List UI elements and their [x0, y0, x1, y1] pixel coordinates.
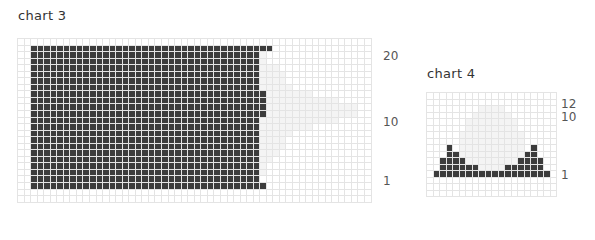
- chart-cell: [544, 191, 550, 197]
- chart-cell: [129, 104, 135, 110]
- chart-cell: [188, 78, 194, 84]
- chart-cell: [123, 78, 129, 84]
- chart-cell: [492, 165, 498, 171]
- chart-cell: [169, 124, 175, 130]
- chart-cell: [116, 91, 122, 97]
- chart-cell: [531, 171, 537, 177]
- chart-cell: [499, 178, 505, 184]
- chart-cell: [38, 163, 44, 169]
- chart-cell: [44, 85, 50, 91]
- chart-cell: [453, 139, 459, 145]
- chart-cell: [434, 152, 440, 158]
- chart-cell: [57, 183, 63, 189]
- chart-cell: [466, 184, 472, 190]
- chart-cell: [486, 152, 492, 158]
- chart-cell: [358, 183, 364, 189]
- row-label: 1: [383, 174, 391, 188]
- chart-cell: [136, 104, 142, 110]
- chart-cell: [306, 124, 312, 130]
- chart-cell: [51, 91, 57, 97]
- chart-cell: [286, 46, 292, 52]
- chart-cell: [247, 39, 253, 45]
- chart-cell: [339, 118, 345, 124]
- chart-cell: [188, 98, 194, 104]
- chart-cell: [51, 52, 57, 58]
- chart-cell: [116, 98, 122, 104]
- chart-cell: [221, 163, 227, 169]
- chart-cell: [505, 126, 511, 132]
- chart-cell: [77, 150, 83, 156]
- chart-cell: [57, 144, 63, 150]
- chart-cell: [116, 85, 122, 91]
- chart-cell: [505, 191, 511, 197]
- chart-cell: [169, 46, 175, 52]
- chart-cell: [326, 59, 332, 65]
- chart-cell: [473, 126, 479, 132]
- chart-cell: [306, 176, 312, 182]
- chart-cell: [123, 176, 129, 182]
- chart-cell: [195, 72, 201, 78]
- chart-cell: [90, 124, 96, 130]
- chart-cell: [332, 104, 338, 110]
- chart-cell: [427, 165, 433, 171]
- chart-cell: [90, 157, 96, 163]
- chart-cell: [70, 91, 76, 97]
- chart-cell: [332, 78, 338, 84]
- chart-cell: [103, 137, 109, 143]
- chart-cell: [512, 106, 518, 112]
- chart-cell: [473, 178, 479, 184]
- row-label: 10: [383, 115, 398, 129]
- chart-cell: [169, 72, 175, 78]
- chart-cell: [162, 124, 168, 130]
- chart-cell: [90, 176, 96, 182]
- chart-cell: [97, 190, 103, 196]
- chart-cell: [70, 78, 76, 84]
- chart-cell: [286, 59, 292, 65]
- chart-cell: [280, 65, 286, 71]
- chart-cell: [136, 118, 142, 124]
- chart-cell: [339, 124, 345, 130]
- chart-cell: [25, 104, 31, 110]
- chart-cell: [228, 98, 234, 104]
- chart-cell: [214, 65, 220, 71]
- chart-cell: [175, 104, 181, 110]
- chart-cell: [544, 145, 550, 151]
- chart-cell: [365, 163, 371, 169]
- chart-cell: [44, 163, 50, 169]
- chart-cell: [345, 190, 351, 196]
- chart-cell: [90, 46, 96, 52]
- chart-cell: [31, 72, 37, 78]
- chart-cell: [64, 65, 70, 71]
- chart-cell: [300, 137, 306, 143]
- chart-cell: [247, 144, 253, 150]
- chart-cell: [512, 100, 518, 106]
- chart-cell: [286, 85, 292, 91]
- chart-cell: [260, 144, 266, 150]
- chart-cell: [247, 124, 253, 130]
- chart-cell: [427, 139, 433, 145]
- chart-cell: [473, 171, 479, 177]
- chart-cell: [345, 157, 351, 163]
- chart-cell: [97, 52, 103, 58]
- chart-cell: [300, 78, 306, 84]
- chart-cell: [83, 124, 89, 130]
- chart-cell: [427, 132, 433, 138]
- chart-cell: [188, 111, 194, 117]
- chart-cell: [447, 93, 453, 99]
- chart-cell: [460, 152, 466, 158]
- chart-cell: [267, 176, 273, 182]
- chart-cell: [136, 183, 142, 189]
- chart-cell: [57, 59, 63, 65]
- chart-cell: [453, 132, 459, 138]
- chart-cell: [332, 144, 338, 150]
- chart-cell: [64, 78, 70, 84]
- chart-cell: [149, 163, 155, 169]
- chart-cell: [18, 72, 24, 78]
- chart-cell: [57, 72, 63, 78]
- chart-cell: [332, 170, 338, 176]
- chart-cell: [525, 100, 531, 106]
- chart-cell: [38, 98, 44, 104]
- chart-cell: [345, 118, 351, 124]
- chart-cell: [544, 126, 550, 132]
- chart-cell: [175, 85, 181, 91]
